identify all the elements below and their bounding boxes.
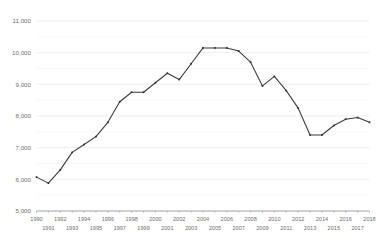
data-point-marker — [119, 101, 121, 103]
data-point-marker — [369, 121, 371, 123]
x-axis-tick-label: 2003 — [185, 225, 197, 231]
line-chart: 5,0006,0007,0008,0009,00010,00011,000 19… — [0, 0, 376, 240]
x-axis-tick-label: 2009 — [256, 225, 268, 231]
x-axis-tick-label: 2014 — [316, 216, 328, 222]
x-axis-tick-label: 2007 — [232, 225, 244, 231]
data-point-marker — [190, 63, 192, 65]
data-point-marker — [59, 169, 61, 171]
x-axis-tick-label: 2000 — [149, 216, 161, 222]
y-axis-tick-label: 7,000 — [16, 144, 32, 151]
data-point-marker — [71, 152, 73, 154]
x-axis-tick-label: 2010 — [268, 216, 280, 222]
data-point-marker — [95, 136, 97, 138]
data-point-marker — [309, 134, 311, 136]
y-axis-tick-label: 11,000 — [13, 17, 32, 24]
x-axis-tick-label: 2013 — [304, 225, 316, 231]
data-point-marker — [131, 91, 133, 93]
y-axis-tick-label: 9,000 — [16, 81, 32, 88]
data-point-marker — [345, 118, 347, 120]
x-axis-tick-label: 2016 — [339, 216, 351, 222]
data-point-marker — [357, 117, 359, 119]
x-axis-tick-label: 1990 — [30, 216, 42, 222]
y-axis-tick-label: 10,000 — [12, 49, 31, 56]
x-axis-tick-label: 2002 — [173, 216, 185, 222]
data-point-marker — [107, 121, 109, 123]
x-axis-tick-label: 1992 — [54, 216, 66, 222]
data-point-marker — [321, 134, 323, 136]
x-axis-tick-label: 1996 — [102, 216, 114, 222]
x-axis-tick-label: 2018 — [363, 216, 375, 222]
data-point-marker — [178, 79, 180, 81]
data-point-marker — [48, 182, 50, 184]
x-axis-tick-label: 1993 — [66, 225, 78, 231]
x-axis-tick-label: 1995 — [90, 225, 102, 231]
chart-canvas: 5,0006,0007,0008,0009,00010,00011,000 19… — [0, 0, 376, 240]
data-point-marker — [202, 47, 204, 49]
data-point-marker — [297, 107, 299, 109]
x-axis-tick-label: 2011 — [280, 225, 292, 231]
data-point-marker — [250, 61, 252, 63]
data-point-marker — [333, 125, 335, 127]
x-axis-tick-label: 2006 — [221, 216, 233, 222]
data-point-marker — [285, 90, 287, 92]
data-point-marker — [226, 47, 228, 49]
x-axis-tick-label: 2017 — [351, 225, 363, 231]
x-axis-tick-label: 1991 — [42, 225, 54, 231]
data-point-marker — [143, 91, 145, 93]
x-axis-tick-label: 2004 — [197, 216, 209, 222]
y-axis-tick-label: 6,000 — [16, 176, 32, 183]
x-axis-tick-label: 2001 — [161, 225, 173, 231]
data-point-marker — [262, 85, 264, 87]
data-point-marker — [83, 144, 85, 146]
chart-background — [0, 0, 376, 240]
x-axis-tick-label: 2012 — [292, 216, 304, 222]
x-axis-tick-label: 2005 — [209, 225, 221, 231]
x-axis-tick-label: 1998 — [125, 216, 137, 222]
data-point-marker — [36, 176, 38, 178]
y-axis-tick-label: 5,000 — [16, 207, 32, 214]
x-axis-tick-label: 2008 — [244, 216, 256, 222]
x-axis-tick-label: 1997 — [114, 225, 126, 231]
data-point-marker — [238, 50, 240, 52]
x-axis-tick-label: 1999 — [137, 225, 149, 231]
x-axis-tick-label: 2015 — [328, 225, 340, 231]
data-point-marker — [155, 82, 157, 84]
data-point-marker — [274, 76, 276, 78]
data-point-marker — [166, 72, 168, 74]
x-axis-tick-label: 1994 — [78, 216, 90, 222]
y-axis-tick-label: 8,000 — [16, 112, 32, 119]
data-point-marker — [214, 47, 216, 49]
